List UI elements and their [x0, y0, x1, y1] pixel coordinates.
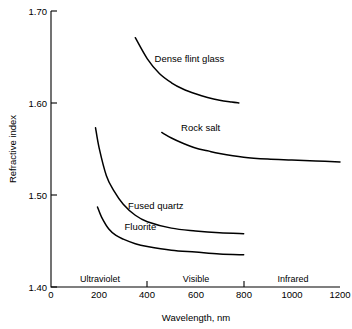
- y-tick-label-1-70: 1.70: [29, 6, 48, 17]
- y-tick-label-1-60: 1.60: [29, 98, 48, 109]
- curve-fused-quartz: [96, 128, 244, 234]
- chart-svg: 1.70 1.60 1.50 1.40 Refractive index 0 2…: [0, 0, 352, 329]
- y-tick-label-1-40: 1.40: [29, 282, 48, 293]
- region-label-visible: Visible: [183, 274, 209, 284]
- x-tick-label-800: 800: [236, 289, 252, 300]
- y-axis-ticks: [51, 11, 57, 287]
- x-tick-label-600: 600: [188, 289, 204, 300]
- x-tick-label-400: 400: [139, 289, 155, 300]
- region-label-infrared: Infrared: [277, 274, 308, 284]
- refractive-index-chart: 1.70 1.60 1.50 1.40 Refractive index 0 2…: [0, 0, 352, 329]
- x-tick-label-200: 200: [91, 289, 107, 300]
- series-label-dense-flint-glass: Dense flint glass: [155, 53, 225, 64]
- series-label-fused-quartz: Fused quartz: [128, 200, 184, 211]
- x-tick-label-1000: 1000: [281, 289, 302, 300]
- curve-dense-flint-glass: [135, 38, 239, 103]
- curve-fluorite: [97, 207, 243, 255]
- x-axis-title: Wavelength, nm: [162, 312, 230, 323]
- series-label-rock-salt: Rock salt: [181, 122, 220, 133]
- y-tick-label-1-50: 1.50: [29, 190, 48, 201]
- region-label-ultraviolet: Ultraviolet: [80, 274, 121, 284]
- y-axis-title: Refractive index: [7, 115, 18, 183]
- x-tick-label-1200: 1200: [329, 289, 350, 300]
- x-tick-label-0: 0: [48, 289, 53, 300]
- series-label-fluorite: Fluorite: [125, 221, 157, 232]
- curve-rock-salt: [162, 132, 340, 161]
